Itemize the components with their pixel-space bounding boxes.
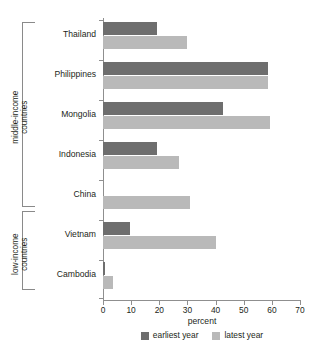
x-tick-label-60: 60	[260, 305, 284, 315]
bar-vietnam-latest	[103, 236, 216, 249]
legend-swatch-earliest-icon	[141, 332, 149, 340]
category-label-indonesia: Indonesia	[0, 149, 100, 159]
x-tick-label-20: 20	[147, 305, 171, 315]
chart-legend: earliest year latest year	[103, 331, 301, 340]
x-tick-label-30: 30	[175, 305, 199, 315]
x-tick-label-50: 50	[232, 305, 256, 315]
plot-area	[103, 18, 300, 300]
group-label-low-income: low-income countries	[11, 204, 29, 304]
category-label-philippines: Philippines	[0, 69, 100, 79]
bar-thailand-latest	[103, 36, 187, 49]
x-tick-label-40: 40	[204, 305, 228, 315]
x-tick-label-0: 0	[91, 305, 115, 315]
category-label-thailand: Thailand	[0, 29, 100, 39]
legend-label-latest: latest year	[224, 331, 263, 340]
bar-chart: middle-income countries low-income count…	[0, 0, 320, 359]
group-label-low-income-line2: countries	[20, 204, 29, 304]
bar-indonesia-latest	[103, 156, 179, 169]
category-label-mongolia: Mongolia	[0, 109, 100, 119]
x-axis-title: percent	[103, 316, 301, 326]
bar-cambodia-earliest	[103, 262, 105, 275]
bar-philippines-latest	[103, 76, 268, 89]
bar-philippines-earliest	[103, 62, 268, 75]
bar-vietnam-earliest	[103, 222, 130, 235]
group-label-low-income-line1: low-income	[11, 204, 20, 304]
legend-item-earliest-year: earliest year	[141, 331, 199, 340]
bar-mongolia-earliest	[103, 102, 223, 115]
bar-indonesia-earliest	[103, 142, 157, 155]
bar-mongolia-latest	[103, 116, 270, 129]
category-label-vietnam: Vietnam	[0, 229, 100, 239]
category-label-cambodia: Cambodia	[0, 269, 100, 279]
x-tick-label-70: 70	[288, 305, 312, 315]
x-tick-label-10: 10	[119, 305, 143, 315]
legend-label-earliest: earliest year	[153, 331, 199, 340]
bar-china-latest	[103, 196, 190, 209]
legend-item-latest-year: latest year	[212, 331, 263, 340]
bar-cambodia-latest	[103, 276, 113, 289]
category-label-china: China	[0, 189, 100, 199]
legend-swatch-latest-icon	[212, 332, 220, 340]
bar-thailand-earliest	[103, 22, 157, 35]
